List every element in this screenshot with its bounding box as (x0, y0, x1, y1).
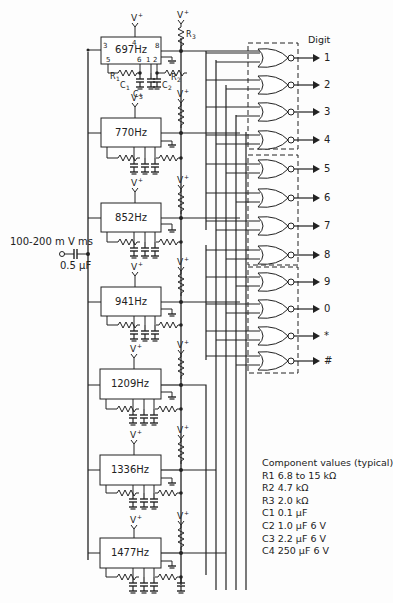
legend-title: Component values (typical) (262, 457, 393, 470)
svg-text:2: 2 (153, 56, 157, 64)
svg-text:1: 1 (146, 56, 150, 64)
digit-label-4: 4 (324, 134, 330, 145)
digit-label-9: 9 (324, 276, 330, 287)
svg-text:3: 3 (192, 33, 196, 40)
digit-label-8: 8 (324, 249, 330, 260)
legend-item: R2 4.7 kΩ (262, 482, 393, 495)
oscillator-label-1209: 1209Hz (90, 378, 170, 389)
digit-label-5: 5 (324, 163, 330, 174)
nor-gates (258, 49, 320, 371)
legend-item: R3 2.0 kΩ (262, 495, 393, 508)
digit-label-hash: # (324, 355, 332, 366)
input-signal-label: 100-200 m V ms (10, 236, 93, 247)
svg-text:2: 2 (177, 76, 181, 83)
oscillator-label-852: 852Hz (91, 212, 171, 223)
digit-label-1: 1 (324, 52, 330, 63)
component-values-legend: Component values (typical) R1 6.8 to 15 … (262, 457, 393, 558)
svg-text:2: 2 (168, 84, 172, 91)
gate-inputs (206, 53, 260, 365)
legend-item: C2 1.0 µF 6 V (262, 520, 393, 533)
input-capacitor-label: 0.5 µF (60, 260, 91, 271)
oscillator-label-941: 941Hz (91, 296, 171, 307)
svg-text:1: 1 (126, 84, 130, 91)
gate-bus (181, 51, 246, 590)
oscillator-label-770: 770Hz (91, 127, 171, 138)
oscillator-label-1336: 1336Hz (90, 464, 170, 475)
digit-label-star: * (324, 330, 329, 341)
oscillator-label-697: 697Hz (91, 44, 171, 55)
legend-item: C4 250 µF 6 V (262, 545, 393, 558)
legend-item: R1 6.8 to 15 kΩ (262, 470, 393, 483)
oscillator-label-1477: 1477Hz (90, 547, 170, 558)
legend-item: C1 0.1 µF (262, 507, 393, 520)
digit-label-0: 0 (324, 303, 330, 314)
digit-label-6: 6 (324, 192, 330, 203)
legend-item: C3 2.2 µF 6 V (262, 533, 393, 546)
digit-label-2: 2 (324, 79, 330, 90)
digit-label-3: 3 (324, 106, 330, 117)
svg-text:6: 6 (137, 56, 142, 64)
digit-label-7: 7 (324, 220, 330, 231)
digit-header: Digit (308, 34, 330, 45)
svg-text:5: 5 (106, 56, 110, 64)
